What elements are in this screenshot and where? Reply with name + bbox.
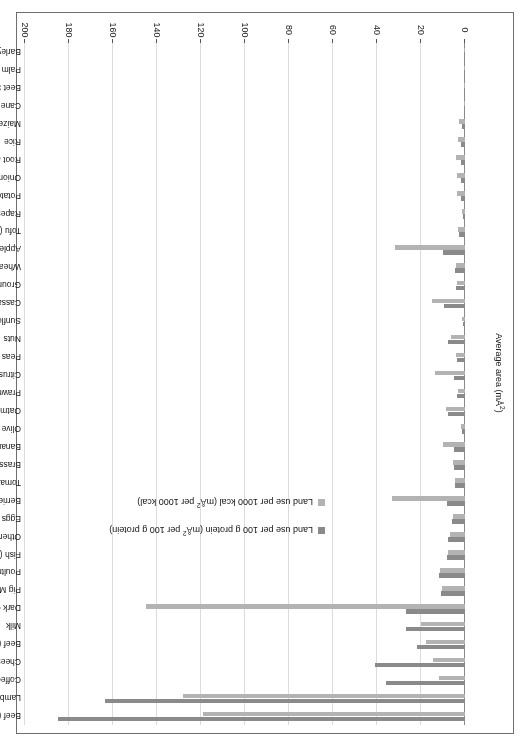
bar-protein (105, 699, 465, 704)
bar-group: Apples (25, 240, 465, 258)
category-label: Fish (farmed) (0, 550, 21, 560)
bar-protein (463, 322, 465, 327)
bar-group: Olive Oil (25, 420, 465, 438)
rotated-figure-wrapper: Average area (mÅ2) 020406080100120140160… (0, 0, 528, 746)
bar-group: Coffee (25, 671, 465, 689)
category-label: Beet Sugar (0, 83, 21, 93)
bar-kcal (203, 712, 465, 717)
bar-protein (463, 214, 465, 219)
bar-kcal (443, 442, 465, 447)
bar-kcal (146, 604, 465, 609)
bar-group: Pig Meat (25, 581, 465, 599)
category-label: Berries & Grapes (0, 496, 21, 506)
bar-group: Maize (25, 115, 465, 133)
bar-protein (454, 447, 465, 452)
bar-kcal (440, 568, 465, 573)
bar-group: Peas (25, 348, 465, 366)
bar-protein (460, 232, 466, 237)
bar-kcal (464, 66, 465, 71)
bar-canvas: Beef (beef herd)Lamb & MuttonCoffeeChees… (25, 43, 465, 725)
bar-protein (406, 627, 465, 632)
category-label: Nuts (4, 334, 21, 344)
category-label: Apples (0, 244, 21, 254)
bar-protein (449, 340, 466, 345)
category-label: Peas (2, 352, 21, 362)
bar-kcal (462, 209, 465, 214)
bar-group: Rapeseed Oil (25, 205, 465, 223)
screenshot-root: Average area (mÅ2) 020406080100120140160… (0, 0, 528, 746)
bar-protein (444, 304, 465, 309)
bar-protein (449, 537, 466, 542)
bar-group: Potatoes (25, 187, 465, 205)
category-label: Eggs (2, 514, 21, 524)
bar-kcal (453, 460, 465, 465)
bar-protein (457, 358, 465, 363)
bar-protein (454, 465, 465, 470)
plot-area: Average area (mÅ2) 020406080100120140160… (17, 13, 513, 733)
chart-legend: Land use per 100 g protein (mÅ2 per 100 … (95, 481, 325, 537)
bar-protein (464, 88, 465, 93)
bar-protein (461, 196, 465, 201)
bar-protein (455, 268, 465, 273)
category-label: Poultry Meat (0, 567, 21, 577)
bar-kcal (395, 245, 465, 250)
category-label: Beef (beef herd) (0, 711, 21, 721)
bar-protein (447, 501, 465, 506)
category-label: Sunflower Oil (0, 316, 21, 326)
bar-kcal (435, 371, 465, 376)
category-label: Root and Vegetables (0, 155, 21, 165)
bar-protein (462, 124, 465, 129)
bar-protein (58, 717, 465, 722)
bar-kcal (455, 478, 465, 483)
bar-group: Root and Vegetables (25, 151, 465, 169)
bar-protein (464, 53, 465, 58)
bar-kcal (462, 317, 465, 322)
bar-protein (447, 555, 465, 560)
bar-kcal (458, 137, 465, 142)
category-label: Maize (0, 119, 21, 129)
bar-kcal (439, 676, 465, 681)
category-label: Cane Sugar (0, 101, 21, 111)
bar-group: Prawns (farmed) (25, 384, 465, 402)
bar-protein (464, 71, 465, 76)
bar-group: Beef (beef herd) (25, 707, 465, 725)
legend-item-kcal: Land use per 1000 kcal (mÅ2 per 1000 kca… (95, 497, 325, 509)
bar-kcal (458, 389, 465, 394)
bar-group: Groundnuts (25, 276, 465, 294)
bar-kcal (464, 48, 465, 53)
bar-kcal (450, 532, 465, 537)
category-label: Cheese (0, 657, 21, 667)
legend-label-protein: Land use per 100 g protein (mÅ2 per 100 … (109, 525, 313, 537)
bar-protein (461, 160, 465, 165)
bar-group: Cassava (25, 294, 465, 312)
bar-group: Poultry Meat (25, 563, 465, 581)
value-axis-tick-label: 100 (240, 22, 250, 37)
bar-kcal (457, 281, 465, 286)
bar-group: Citrus Fruit (25, 366, 465, 384)
bar-kcal (456, 263, 465, 268)
legend-item-protein: Land use per 100 g protein (mÅ2 per 100 … (95, 525, 325, 537)
value-axis-tick-label: 140 (152, 22, 162, 37)
bar-group: Nuts (25, 330, 465, 348)
bar-group: Cane Sugar (25, 97, 465, 115)
category-label: Dark Chocolate (0, 603, 21, 613)
bar-kcal (456, 353, 465, 358)
category-label: Onions & Leeks (0, 173, 21, 183)
bar-group: Sunflower Oil (25, 312, 465, 330)
bar-protein (449, 412, 466, 417)
bar-kcal (451, 335, 465, 340)
category-label: Oatmeal (0, 406, 21, 416)
value-axis-title: Average area (mÅ2) (491, 13, 509, 733)
bar-kcal (460, 119, 466, 124)
value-axis-tick-label: 20 (416, 25, 426, 35)
category-label: Bananas (0, 442, 21, 452)
value-axis-tick-label: 40 (372, 25, 382, 35)
category-label: Barley (0, 47, 21, 57)
bar-group: Tofu (soybeans) (25, 222, 465, 240)
value-axis-tick-label: 200 (20, 22, 30, 37)
bar-protein (452, 519, 465, 524)
bar-kcal (442, 586, 465, 591)
bar-kcal (433, 658, 465, 663)
bar-group: Wheat & Rye (25, 258, 465, 276)
bar-kcal (456, 155, 465, 160)
